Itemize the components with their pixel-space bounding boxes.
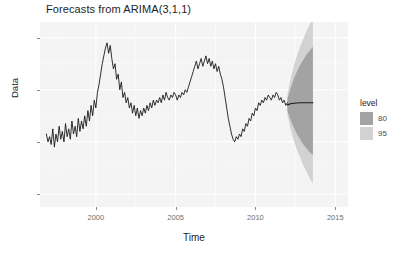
x-tick-label: 2015	[315, 213, 355, 222]
legend-label: 80	[378, 114, 387, 123]
y-tick-mark	[37, 142, 40, 143]
chart-root: Forecasts from ARIMA(3,1,1) 6080100120 2…	[0, 0, 409, 255]
x-tick-label: 2005	[156, 213, 196, 222]
x-tick-mark	[335, 207, 336, 210]
legend-swatch-80	[360, 112, 373, 125]
legend-swatch-95	[360, 127, 373, 140]
legend-key	[360, 112, 373, 125]
x-tick-mark	[176, 207, 177, 210]
x-axis-title: Time	[0, 232, 388, 243]
plot-svg	[40, 22, 348, 207]
y-axis-title: Data	[9, 78, 20, 98]
x-tick-label: 2010	[235, 213, 275, 222]
y-tick-mark	[37, 38, 40, 39]
x-tick-mark	[255, 207, 256, 210]
legend-item[interactable]: 80	[360, 112, 408, 125]
legend-label: 95	[378, 129, 387, 138]
x-tick-mark	[96, 207, 97, 210]
legend-items: 8095	[360, 112, 408, 140]
page-title: Forecasts from ARIMA(3,1,1)	[46, 3, 191, 15]
x-tick-label: 2000	[76, 213, 116, 222]
y-tick-mark	[37, 194, 40, 195]
legend-item[interactable]: 95	[360, 127, 408, 140]
observed-series-line	[46, 43, 287, 147]
legend: level 8095	[360, 98, 408, 142]
legend-title: level	[360, 98, 408, 108]
plot-panel	[40, 22, 348, 207]
legend-key	[360, 127, 373, 140]
y-tick-mark	[37, 90, 40, 91]
